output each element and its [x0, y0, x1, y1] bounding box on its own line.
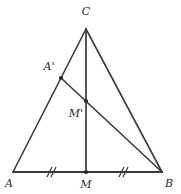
segment-ac: [13, 29, 86, 172]
label-point-aprime: A': [43, 60, 55, 73]
segment-aprime-b: [61, 78, 162, 172]
label-point-m: M: [79, 178, 92, 191]
label-point-a: A: [4, 177, 13, 190]
geometry-canvas: A B C M A' M': [0, 0, 181, 194]
label-point-b: B: [164, 177, 173, 190]
geometry-diagram: A B C M A' M': [0, 0, 181, 194]
segment-cb: [86, 29, 162, 172]
point-dot-m: [84, 170, 88, 174]
point-dot-mprime: [84, 99, 88, 103]
label-point-c: C: [82, 5, 91, 18]
label-point-mprime: M': [68, 107, 83, 120]
point-dot-aprime: [59, 76, 63, 80]
